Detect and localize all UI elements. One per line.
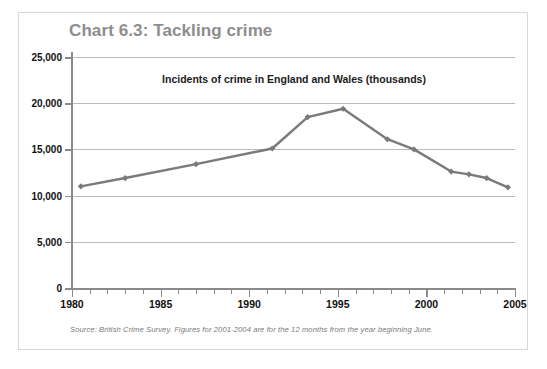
x-axis-major-tick: [426, 289, 427, 297]
y-axis-tick: [65, 288, 72, 290]
source-note: Source: British Crime Survey. Figures fo…: [70, 325, 433, 334]
y-axis-tick-label: 10,000: [10, 190, 62, 201]
y-axis-tick: [65, 103, 72, 105]
y-axis-tick-label: 5,000: [10, 236, 62, 247]
x-axis-tick-label: 1980: [60, 298, 83, 310]
x-axis-major-tick: [161, 289, 162, 297]
y-axis-tick-label: 15,000: [10, 144, 62, 155]
x-axis-tick-label: 1985: [149, 298, 172, 310]
x-axis-minor-tick: [90, 289, 91, 294]
x-axis-minor-tick: [444, 289, 445, 294]
y-axis-tick-label: 20,000: [10, 98, 62, 109]
x-axis-minor-tick: [302, 289, 303, 294]
x-axis-minor-tick: [497, 289, 498, 294]
x-axis-minor-tick: [214, 289, 215, 294]
y-axis-labels: 05,00010,00015,00020,00025,000: [10, 0, 62, 369]
x-axis-minor-tick: [480, 289, 481, 294]
x-axis-major-tick: [249, 289, 250, 297]
x-axis-minor-tick: [107, 289, 108, 294]
x-axis-minor-tick: [231, 289, 232, 294]
gridline: [72, 149, 515, 150]
x-axis-line: [71, 288, 516, 290]
x-axis-minor-tick: [356, 289, 357, 294]
x-axis-tick-label: 2005: [503, 298, 526, 310]
y-axis-tick: [65, 57, 72, 59]
x-axis-tick-label: 1995: [326, 298, 349, 310]
chart-figure: Chart 6.3: Tackling crime Incidents of c…: [0, 0, 547, 369]
x-axis-minor-tick: [267, 289, 268, 294]
y-axis-line: [71, 52, 73, 289]
y-axis-tick: [65, 242, 72, 244]
y-axis-tick-label: 25,000: [10, 52, 62, 63]
x-axis-minor-tick: [196, 289, 197, 294]
y-axis-tick: [65, 196, 72, 198]
plot-area: [72, 57, 515, 288]
chart-title: Chart 6.3: Tackling crime: [69, 21, 272, 41]
y-axis-tick-label: 0: [10, 283, 62, 294]
gridline: [72, 242, 515, 243]
x-axis-minor-tick: [125, 289, 126, 294]
gridline: [72, 57, 515, 58]
x-axis-minor-tick: [409, 289, 410, 294]
gridline: [72, 103, 515, 104]
x-axis-major-tick: [338, 289, 339, 297]
x-axis-minor-tick: [143, 289, 144, 294]
x-axis-minor-tick: [391, 289, 392, 294]
y-axis-tick: [65, 149, 72, 151]
gridline: [72, 196, 515, 197]
x-axis-minor-tick: [178, 289, 179, 294]
x-axis-major-tick: [515, 289, 516, 297]
x-axis-tick-label: 2000: [415, 298, 438, 310]
x-axis-major-tick: [72, 289, 73, 297]
x-axis-minor-tick: [373, 289, 374, 294]
x-axis-minor-tick: [320, 289, 321, 294]
x-axis-minor-tick: [285, 289, 286, 294]
x-axis-tick-label: 1990: [238, 298, 261, 310]
x-axis-minor-tick: [462, 289, 463, 294]
